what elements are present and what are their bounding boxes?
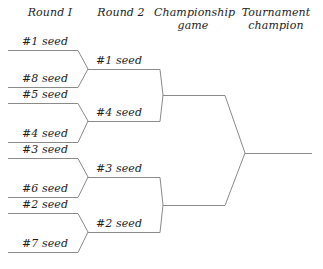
round1-seed-label-6: #6 seed — [22, 183, 68, 195]
connector-r2-semifinal-lower — [160, 178, 163, 233]
round1-seed-label-5: #3 seed — [22, 144, 68, 156]
column-header-round-2: Round 2 — [88, 7, 154, 20]
connector-r1-match-d — [78, 214, 88, 253]
round2-seed-label-1: #1 seed — [96, 55, 142, 67]
column-header-round-1: Round I — [14, 7, 86, 20]
round1-seed-label-1: #1 seed — [22, 36, 68, 48]
connector-r1-match-a — [78, 51, 88, 88]
column-header-championship-game: Championship game — [154, 7, 232, 32]
round1-seed-label-3: #5 seed — [22, 89, 68, 101]
connector-r2-semifinal-upper — [160, 70, 163, 122]
round1-seed-label-7: #2 seed — [22, 199, 68, 211]
connector-final — [225, 96, 245, 206]
tournament-bracket-diagram: Round I Round 2 Championship game Tourna… — [0, 0, 323, 269]
round1-seed-label-2: #8 seed — [22, 73, 68, 85]
round2-seed-label-4: #2 seed — [96, 218, 142, 230]
round2-seed-label-3: #3 seed — [96, 163, 142, 175]
column-header-tournament-champion: Tournament champion — [236, 7, 316, 32]
connector-r1-match-b — [78, 104, 88, 143]
round1-seed-label-4: #4 seed — [22, 128, 68, 140]
connector-r1-match-c — [78, 159, 88, 198]
round2-seed-label-2: #4 seed — [96, 107, 142, 119]
round1-seed-label-8: #7 seed — [22, 238, 68, 250]
